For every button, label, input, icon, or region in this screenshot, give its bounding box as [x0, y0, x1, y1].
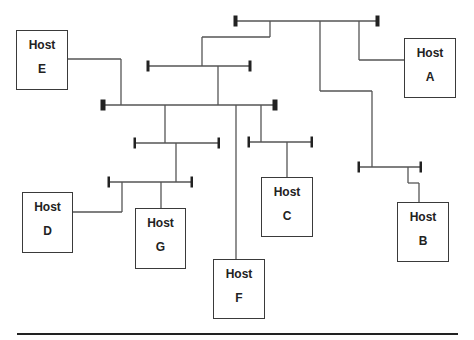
host-d: Host D: [22, 192, 73, 253]
host-b-id: B: [398, 234, 448, 248]
host-c-label: Host: [262, 185, 312, 199]
host-c-id: C: [262, 209, 312, 223]
host-f: Host F: [213, 259, 265, 319]
host-a-label: Host: [405, 46, 455, 60]
host-f-id: F: [214, 291, 264, 305]
network-diagram: Host E Host A Host D Host G Host C Host …: [0, 0, 474, 340]
host-e: Host E: [16, 30, 68, 90]
host-d-id: D: [23, 224, 72, 238]
host-f-label: Host: [214, 267, 264, 281]
host-d-label: Host: [23, 200, 72, 214]
host-c: Host C: [261, 177, 313, 237]
host-e-id: E: [17, 62, 67, 76]
host-a-id: A: [405, 70, 455, 84]
host-b-label: Host: [398, 210, 448, 224]
host-g: Host G: [135, 208, 186, 269]
host-e-label: Host: [17, 38, 67, 52]
host-g-label: Host: [136, 216, 185, 230]
host-b: Host B: [397, 202, 449, 262]
host-g-id: G: [136, 240, 185, 254]
host-a: Host A: [404, 38, 456, 98]
